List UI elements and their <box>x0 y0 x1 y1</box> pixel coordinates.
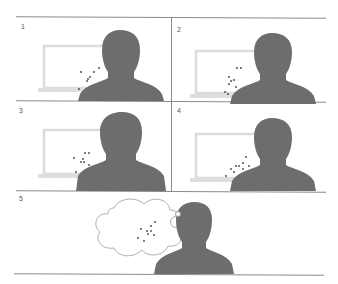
panel-5: 5 <box>14 192 326 274</box>
panel-2: 2 <box>172 18 327 101</box>
person-silhouette-icon <box>172 102 327 191</box>
person-silhouette-icon <box>14 192 326 274</box>
panel-4: 4 <box>172 102 327 191</box>
panel-1: 1 <box>16 18 171 101</box>
person-silhouette-icon <box>16 18 171 101</box>
panel-3: 3 <box>16 102 171 191</box>
person-silhouette-icon <box>16 102 171 191</box>
person-silhouette-icon <box>172 18 327 101</box>
